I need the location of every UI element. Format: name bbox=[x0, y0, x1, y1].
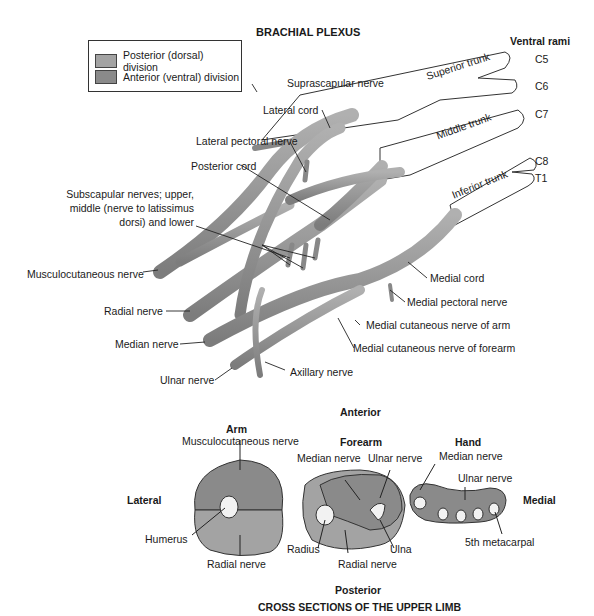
ulnar-label: Ulnar nerve bbox=[160, 374, 214, 386]
medial-cutaneous-forearm-label: Medial cutaneous nerve of forearm bbox=[353, 342, 515, 354]
radius-label: Radius bbox=[287, 543, 320, 555]
arm-radial-label: Radial nerve bbox=[207, 558, 266, 570]
subscapular-label-1: Subscapular nerves; upper, bbox=[60, 188, 194, 200]
medial-cord-label: Medial cord bbox=[430, 272, 484, 284]
root-c6: C6 bbox=[535, 80, 548, 92]
medial-pectoral-label: Medial pectoral nerve bbox=[407, 296, 507, 308]
suprascapular-label: Suprascapular nerve bbox=[287, 77, 384, 89]
forearm-ulnar-label: Ulnar nerve bbox=[368, 452, 422, 464]
arm-musculocutaneous-label: Musculocutaneous nerve bbox=[182, 435, 299, 447]
musculocutaneous-label: Musculocutaneous nerve bbox=[27, 268, 144, 280]
cross-section-forearm bbox=[303, 470, 405, 553]
brachial-plexus-diagram bbox=[0, 0, 594, 616]
lateral-label: Lateral bbox=[127, 494, 161, 506]
medial-label: Medial bbox=[523, 494, 556, 506]
ventral-rami-heading: Ventral rami bbox=[510, 35, 570, 47]
forearm-heading: Forearm bbox=[340, 436, 382, 448]
subscapular-label-3: dorsi) and lower bbox=[60, 216, 194, 228]
metacarpal-label: 5th metacarpal bbox=[465, 536, 534, 548]
legend: Posterior (dorsal) division Anterior (ve… bbox=[88, 40, 242, 92]
forearm-median-label: Median nerve bbox=[297, 452, 361, 464]
root-c5: C5 bbox=[535, 53, 548, 65]
legend-item-anterior: Anterior (ventral) division bbox=[95, 70, 239, 84]
root-c8: C8 bbox=[535, 155, 548, 167]
anterior-label: Anterior bbox=[340, 406, 381, 418]
hand-median-label: Median nerve bbox=[439, 450, 503, 462]
radial-label: Radial nerve bbox=[104, 305, 163, 317]
lateral-pectoral-label: Lateral pectoral nerve bbox=[196, 135, 298, 147]
arm-heading: Arm bbox=[226, 423, 247, 435]
ulna-label: Ulna bbox=[390, 543, 412, 555]
humerus-label: Humerus bbox=[145, 533, 188, 545]
median-label: Median nerve bbox=[115, 338, 179, 350]
posterior-swatch bbox=[95, 54, 117, 68]
lateral-cord-label: Lateral cord bbox=[263, 104, 318, 116]
cross-sections-title: CROSS SECTIONS OF THE UPPER LIMB bbox=[258, 601, 461, 613]
root-t1: T1 bbox=[535, 172, 547, 184]
axillary-label: Axillary nerve bbox=[290, 366, 353, 378]
root-c7: C7 bbox=[535, 108, 548, 120]
hand-ulnar-label: Ulnar nerve bbox=[458, 472, 512, 484]
posterior-label: Posterior bbox=[335, 584, 381, 596]
hand-heading: Hand bbox=[455, 436, 481, 448]
cross-section-arm bbox=[192, 440, 283, 556]
subscapular-label-2: middle (nerve to latissimus bbox=[50, 202, 194, 214]
posterior-cord-label: Posterior cord bbox=[191, 160, 256, 172]
forearm-radial-label: Radial nerve bbox=[338, 558, 397, 570]
plexus-title: BRACHIAL PLEXUS bbox=[256, 26, 360, 38]
legend-label: Anterior (ventral) division bbox=[123, 71, 239, 83]
medial-cutaneous-arm-label: Medial cutaneous nerve of arm bbox=[366, 319, 510, 331]
anterior-swatch bbox=[95, 70, 117, 84]
